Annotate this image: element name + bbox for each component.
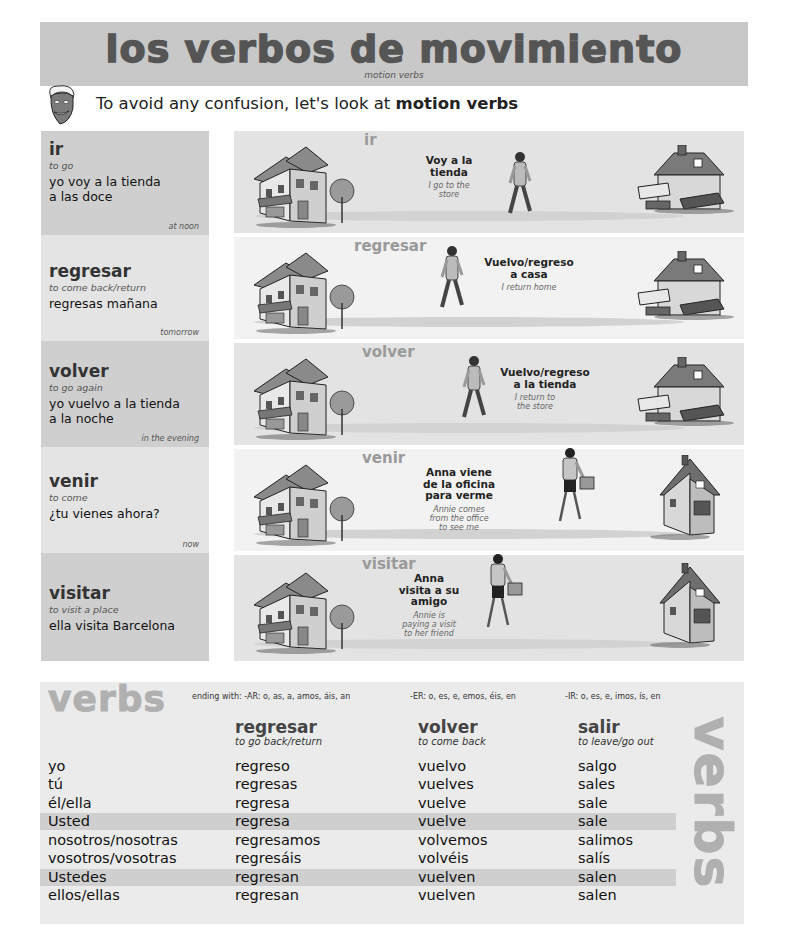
column-verb: volver: [418, 718, 486, 736]
column-header-regresar: regresar to go back/return: [235, 718, 322, 748]
scene-spanish: Annavisita a suamigo: [394, 573, 464, 608]
scene-venir: venir Anna vienede la oficinapara verme …: [234, 449, 744, 551]
scene-spanish: Anna vienede la oficinapara verme: [422, 467, 496, 502]
title-banner: los verbos de movimiento motion verbs: [40, 22, 748, 86]
pronoun-cell: Ustedes: [48, 869, 106, 886]
form-cell: sales: [578, 776, 615, 793]
pronoun-cell: vosotros/vosotras: [48, 850, 176, 867]
form-cell: sale: [578, 813, 607, 830]
form-cell: vuelves: [418, 776, 474, 793]
house-icon: [246, 351, 366, 443]
verb-name: visitar: [49, 583, 209, 603]
form-cell: salimos: [578, 832, 633, 849]
verb-card-visitar: visitar to visit a place ella visita Bar…: [41, 553, 209, 661]
intro-bold: motion verbs: [396, 94, 519, 113]
verb-translation: to come back/return: [49, 282, 209, 294]
shop-icon: [634, 251, 734, 325]
intro-text: To avoid any confusion, let's look at mo…: [96, 94, 518, 113]
house-icon: [246, 139, 366, 231]
pronoun-cell: tú: [48, 776, 63, 793]
example-line: ¿tu vienes ahora?: [49, 506, 209, 521]
example-line: yo vuelvo a la tienda: [49, 396, 209, 411]
verb-translation: to visit a place: [49, 604, 209, 616]
table-row: tú regresas vuelves sales: [40, 776, 676, 793]
pronoun-cell: él/ella: [48, 795, 92, 812]
table-row-highlighted: Ustedes regresan vuelven salen: [40, 869, 676, 886]
verb-name: venir: [49, 471, 209, 491]
example-note: at noon: [168, 222, 199, 231]
form-cell: vuelvo: [418, 758, 466, 775]
pronoun-cell: Usted: [48, 813, 90, 830]
table-row-highlighted: Usted regresa vuelve sale: [40, 813, 676, 830]
form-cell: vuelve: [418, 813, 466, 830]
example-note: in the evening: [141, 434, 199, 443]
scene-english: Annie ispaying a visitto her friend: [394, 611, 464, 638]
verb-translation: to come: [49, 492, 209, 504]
example-line: a las doce: [49, 189, 209, 204]
page-subtitle: motion verbs: [40, 70, 748, 80]
verb-translation: to go again: [49, 382, 209, 394]
ending-er: -ER: o, es, e, emos, éis, en: [410, 692, 516, 701]
shop-icon: [634, 357, 734, 431]
house-icon: [246, 457, 366, 549]
form-cell: vuelven: [418, 869, 475, 886]
pronoun-cell: nosotros/nosotras: [48, 832, 178, 849]
verb-name: ir: [49, 139, 209, 159]
form-cell: regresamos: [235, 832, 320, 849]
scene-visitar: visitar Annavisita a suamigo Annie ispay…: [234, 555, 744, 661]
house-icon: [246, 565, 366, 657]
pronoun-cell: yo: [48, 758, 65, 775]
example-note: tomorrow: [160, 328, 199, 337]
form-cell: regresan: [235, 869, 299, 886]
scene-spanish: Vuelvo/regresoa casa: [484, 257, 574, 280]
column-verb: salir: [578, 718, 654, 736]
table-row: vosotros/vosotras regresáis volvéis salí…: [40, 850, 676, 867]
cottage-icon: [650, 455, 722, 543]
table-title: verbs: [48, 678, 166, 719]
example-line: ella visita Barcelona: [49, 618, 209, 633]
walking-woman-icon: [556, 447, 598, 547]
verb-card-regresar: regresar to come back/return regresas ma…: [41, 235, 209, 341]
verb-card-ir: ir to go yo voy a la tienda a las doce a…: [41, 131, 209, 235]
scene-regresar: regresar Vuelvo/regresoa casa I return h…: [234, 237, 744, 339]
scene-english: I go to thestore: [414, 181, 484, 199]
form-cell: regresáis: [235, 850, 301, 867]
form-cell: regresan: [235, 887, 299, 904]
cartoon-face-icon: [44, 84, 78, 126]
form-cell: regreso: [235, 758, 290, 775]
column-header-volver: volver to come back: [418, 718, 486, 748]
side-watermark: verbs: [682, 682, 744, 924]
example-line: yo voy a la tienda: [49, 174, 209, 189]
intro-prefix: To avoid any confusion, let's look at: [96, 94, 396, 113]
scene-english: I return tothe store: [500, 393, 570, 411]
pronoun-cell: ellos/ellas: [48, 887, 120, 904]
verb-card-venir: venir to come ¿tu vienes ahora? now: [41, 447, 209, 553]
example-note: now: [182, 540, 199, 549]
scene-english: Annie comesfrom the officeto see me: [422, 505, 496, 532]
form-cell: sale: [578, 795, 607, 812]
side-title: verbs: [683, 717, 743, 890]
scene-spanish: Vuelvo/regresoa la tienda: [500, 367, 590, 390]
scene-label: visitar: [362, 555, 416, 573]
form-cell: volvemos: [418, 832, 488, 849]
walking-woman-icon: [484, 553, 526, 653]
scene-label: venir: [362, 449, 405, 467]
scene-english: I return home: [484, 283, 574, 292]
table-row: ellos/ellas regresan vuelven salen: [40, 887, 676, 904]
column-header-salir: salir to leave/go out: [578, 718, 654, 748]
column-translation: to come back: [418, 736, 486, 748]
shop-icon: [634, 145, 734, 219]
page-title: los verbos de movimiento: [40, 28, 748, 70]
scene-ir: ir Voy a latienda I go to thestore: [234, 131, 744, 233]
form-cell: regresa: [235, 813, 290, 830]
cottage-icon: [650, 563, 722, 651]
form-cell: regresa: [235, 795, 290, 812]
example-line: regresas mañana: [49, 296, 209, 311]
table-row: nosotros/nosotras regresamos volvemos sa…: [40, 832, 676, 849]
walking-man-icon: [506, 151, 536, 217]
verb-card-volver: volver to go again yo vuelvo a la tienda…: [41, 341, 209, 447]
form-cell: salís: [578, 850, 610, 867]
verb-name: regresar: [49, 261, 209, 281]
house-icon: [246, 245, 366, 337]
form-cell: vuelven: [418, 887, 475, 904]
